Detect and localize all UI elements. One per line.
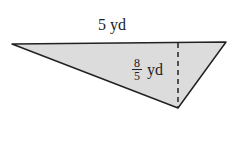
height-denominator: 5 bbox=[134, 69, 140, 83]
height-unit: yd bbox=[147, 61, 163, 79]
base-label: 5 yd bbox=[98, 16, 126, 34]
height-fraction: 8 5 bbox=[132, 57, 142, 82]
height-numerator: 8 bbox=[134, 56, 140, 70]
triangle bbox=[12, 42, 226, 108]
